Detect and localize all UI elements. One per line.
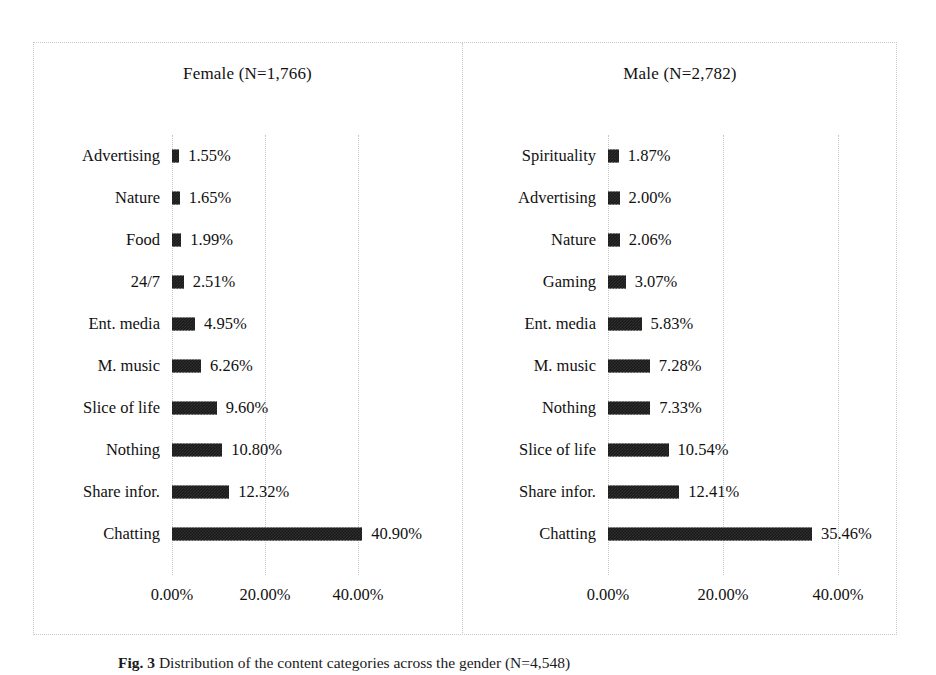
bar-value-label: 12.32% (238, 484, 289, 501)
bar-value-label: 2.06% (629, 232, 672, 249)
bar-value-label: 1.99% (190, 232, 233, 249)
bar-value-label: 2.51% (193, 274, 236, 291)
bar-row: Ent. media4.95% (33, 303, 462, 345)
bar (608, 150, 619, 163)
bar (608, 486, 679, 499)
bar-value-label: 35.46% (821, 526, 872, 543)
bar-row: Slice of life9.60% (33, 387, 462, 429)
figure-caption-text: Distribution of the content categories a… (159, 654, 570, 671)
bar (172, 276, 184, 289)
bar-value-label: 7.33% (659, 400, 702, 417)
bar-row: Nothing10.80% (33, 429, 462, 471)
x-axis-tick-label: 20.00% (698, 587, 749, 604)
bar (608, 318, 642, 331)
bar-row: Nature1.65% (33, 177, 462, 219)
bar-row: Ent. media5.83% (463, 303, 897, 345)
category-label: Share infor. (470, 484, 596, 501)
bar-value-label: 10.80% (231, 442, 282, 459)
chart-title-female: Female (N=1,766) (33, 64, 462, 84)
bar-value-label: 1.55% (188, 148, 231, 165)
figure-caption: Fig. 3 Distribution of the content categ… (118, 654, 878, 672)
bar (608, 234, 620, 247)
bar-row: Share infor.12.41% (463, 471, 897, 513)
bar-row: Chatting40.90% (33, 513, 462, 555)
category-label: Nothing (470, 400, 596, 417)
category-label: Gaming (470, 274, 596, 291)
category-label: Ent. media (470, 316, 596, 333)
bar (172, 234, 181, 247)
plot-area-male: Spirituality1.87%Advertising2.00%Nature2… (463, 125, 897, 590)
bar-value-label: 4.95% (204, 316, 247, 333)
category-label: Advertising (40, 148, 160, 165)
x-axis-tick-label: 0.00% (151, 587, 194, 604)
bar-value-label: 12.41% (688, 484, 739, 501)
bar-value-label: 6.26% (210, 358, 253, 375)
category-label: M. music (470, 358, 596, 375)
plot-area-female: Advertising1.55%Nature1.65%Food1.99%24/7… (33, 125, 462, 590)
bar-row: Slice of life10.54% (463, 429, 897, 471)
bar-row: Gaming3.07% (463, 261, 897, 303)
bar-row: 24/72.51% (33, 261, 462, 303)
bar-row: Food1.99% (33, 219, 462, 261)
x-axis-tick-label: 0.00% (587, 587, 630, 604)
bar-value-label: 1.87% (628, 148, 671, 165)
bar-row: Nature2.06% (463, 219, 897, 261)
bar-row: M. music7.28% (463, 345, 897, 387)
bar-row: Advertising1.55% (33, 135, 462, 177)
bar-value-label: 40.90% (371, 526, 422, 543)
chart-panel-female: Female (N=1,766) Advertising1.55%Nature1… (33, 42, 462, 635)
bar (172, 150, 179, 163)
bar (608, 276, 626, 289)
bar-value-label: 1.65% (189, 190, 232, 207)
x-axis-tick-label: 40.00% (813, 587, 864, 604)
chart-panel-male: Male (N=2,782) Spirituality1.87%Advertis… (463, 42, 897, 635)
bar-row: Advertising2.00% (463, 177, 897, 219)
category-label: Nature (470, 232, 596, 249)
category-label: Nature (40, 190, 160, 207)
bar (172, 192, 180, 205)
category-label: Food (40, 232, 160, 249)
bar (172, 486, 229, 499)
category-label: Ent. media (40, 316, 160, 333)
category-label: M. music (40, 358, 160, 375)
bar (608, 402, 650, 415)
category-label: Slice of life (40, 400, 160, 417)
bar-row: M. music6.26% (33, 345, 462, 387)
category-label: Spirituality (470, 148, 596, 165)
bar (608, 444, 669, 457)
bar-value-label: 9.60% (226, 400, 269, 417)
bar-row: Nothing7.33% (463, 387, 897, 429)
category-label: Nothing (40, 442, 160, 459)
x-axis-tick-label: 20.00% (240, 587, 291, 604)
x-axis-tick-label: 40.00% (333, 587, 384, 604)
bar (172, 528, 362, 541)
bar (172, 360, 201, 373)
bar-value-label: 7.28% (659, 358, 702, 375)
bar (608, 192, 620, 205)
bar-row: Share infor.12.32% (33, 471, 462, 513)
bar (608, 360, 650, 373)
category-label: Advertising (470, 190, 596, 207)
bar-row: Spirituality1.87% (463, 135, 897, 177)
bar (172, 402, 217, 415)
category-label: Chatting (40, 526, 160, 543)
bar-value-label: 3.07% (635, 274, 678, 291)
bar-row: Chatting35.46% (463, 513, 897, 555)
bar (608, 528, 812, 541)
category-label: Share infor. (40, 484, 160, 501)
chart-title-male: Male (N=2,782) (463, 64, 897, 84)
bar (172, 318, 195, 331)
category-label: Chatting (470, 526, 596, 543)
bar-value-label: 10.54% (678, 442, 729, 459)
bar (172, 444, 222, 457)
category-label: 24/7 (40, 274, 160, 291)
category-label: Slice of life (470, 442, 596, 459)
bar-value-label: 5.83% (651, 316, 694, 333)
bar-value-label: 2.00% (629, 190, 672, 207)
figure-caption-label: Fig. 3 (118, 654, 155, 671)
